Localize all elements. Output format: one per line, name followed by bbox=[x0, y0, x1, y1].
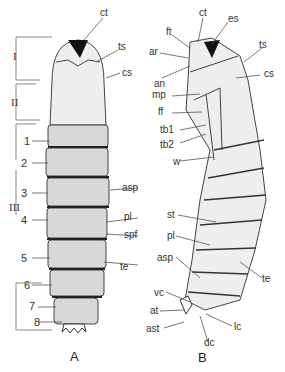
label-b-ar: ar bbox=[149, 47, 158, 57]
label-b-lc: lc bbox=[234, 322, 241, 332]
label-b-ts: ts bbox=[259, 40, 267, 50]
label-a-asp: asp bbox=[122, 183, 138, 193]
region-label-i: I bbox=[13, 50, 17, 62]
segment-label-6: 6 bbox=[24, 279, 30, 291]
label-b-ft: ft bbox=[166, 27, 172, 37]
label-b-ff: ff bbox=[158, 107, 163, 117]
panel-label-a: A bbox=[70, 349, 79, 364]
label-b-tb2: tb2 bbox=[160, 140, 174, 150]
label-a-spf: spf bbox=[124, 230, 137, 240]
label-b-asp: asp bbox=[157, 253, 173, 263]
label-b-tb1: tb1 bbox=[160, 125, 174, 135]
label-b-st: st bbox=[167, 210, 175, 220]
label-b-vc: vc bbox=[154, 288, 164, 298]
diagram-drawing bbox=[0, 0, 285, 372]
label-b-mp: mp bbox=[152, 90, 166, 100]
segment-label-1: 1 bbox=[24, 135, 30, 147]
segment-label-7: 7 bbox=[29, 300, 35, 312]
segment-label-8: 8 bbox=[34, 316, 40, 328]
label-b-ct: ct bbox=[199, 8, 207, 18]
label-b-es: es bbox=[228, 14, 239, 24]
region-label-iii: III bbox=[9, 201, 20, 213]
label-b-te: te bbox=[262, 274, 270, 284]
label-b-an: an bbox=[154, 79, 165, 89]
label-b-pl: pl bbox=[167, 231, 175, 241]
panel-label-b: B bbox=[198, 350, 207, 365]
region-label-ii: II bbox=[11, 96, 18, 108]
label-a-te: te bbox=[120, 262, 128, 272]
label-a-ts: ts bbox=[118, 42, 126, 52]
head-capsule-b bbox=[185, 38, 266, 310]
label-a-ct: ct bbox=[100, 8, 108, 18]
label-b-dc: dc bbox=[204, 338, 215, 348]
segment-label-5: 5 bbox=[21, 252, 27, 264]
segment-label-2: 2 bbox=[21, 157, 27, 169]
label-a-pl: pl bbox=[124, 212, 132, 222]
label-b-cs: cs bbox=[264, 69, 274, 79]
label-b-ast: ast bbox=[146, 324, 159, 334]
label-b-at: at bbox=[150, 306, 158, 316]
segment-label-3: 3 bbox=[21, 187, 27, 199]
segment-label-4: 4 bbox=[21, 214, 27, 226]
label-b-w: w bbox=[173, 157, 180, 167]
label-a-cs: cs bbox=[122, 68, 132, 78]
